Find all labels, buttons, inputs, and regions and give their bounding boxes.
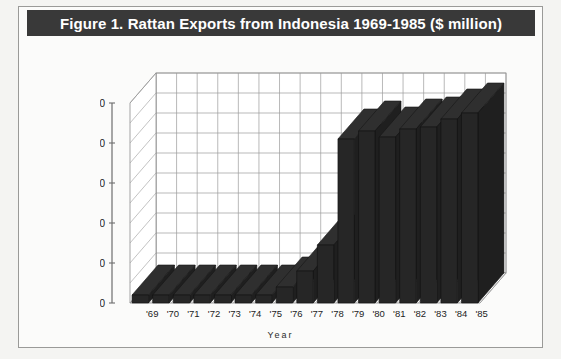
x-tick-77: '77 [311, 308, 323, 317]
bar-85 [461, 83, 503, 303]
figure-title: Figure 1. Rattan Exports from Indonesia … [60, 15, 502, 32]
svg-text:40: 40 [100, 218, 105, 229]
x-tick-71: '71 [187, 308, 199, 317]
x-tick-82: '82 [414, 308, 426, 317]
x-tick-83: '83 [434, 308, 446, 317]
x-tick-74: '74 [249, 308, 261, 317]
x-tick-79: '79 [352, 308, 364, 317]
x-tick-72: '72 [208, 308, 220, 317]
x-tick-78: '78 [331, 308, 343, 317]
x-tick-80: '80 [373, 308, 385, 317]
svg-text:100: 100 [100, 98, 105, 109]
x-tick-69: '69 [146, 308, 158, 317]
svg-text:80: 80 [100, 138, 105, 149]
x-tick-73: '73 [228, 308, 240, 317]
svg-text:0: 0 [100, 298, 105, 309]
bar-chart-svg: 020406080100'69'70'71'72'73'74'75'76'77'… [100, 55, 510, 317]
svg-text:20: 20 [100, 258, 105, 269]
x-tick-81: '81 [393, 308, 405, 317]
x-axis-label: Year [0, 330, 561, 340]
figure-container: Figure 1. Rattan Exports from Indonesia … [0, 0, 561, 359]
x-tick-70: '70 [167, 308, 179, 317]
x-tick-84: '84 [455, 308, 467, 317]
x-axis-label-text: Year [267, 330, 293, 340]
x-tick-76: '76 [290, 308, 302, 317]
svg-text:60: 60 [100, 178, 105, 189]
chart-plot-area: 020406080100'69'70'71'72'73'74'75'76'77'… [100, 55, 510, 315]
x-tick-75: '75 [270, 308, 282, 317]
x-tick-85: '85 [475, 308, 487, 317]
figure-title-bar: Figure 1. Rattan Exports from Indonesia … [27, 10, 535, 36]
